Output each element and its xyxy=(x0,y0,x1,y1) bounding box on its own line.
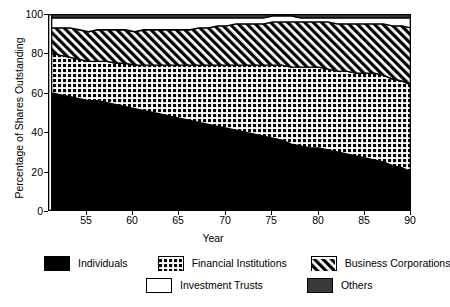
x-tick-mark xyxy=(271,211,272,215)
x-tick-mark xyxy=(178,211,179,215)
x-axis-label: Year xyxy=(0,232,426,244)
legend-item-investment-trusts: Investment Trusts xyxy=(146,278,263,293)
legend-item-business-corporations: Business Corporations xyxy=(311,256,450,271)
x-tick-mark xyxy=(86,211,87,215)
legend-item-others: Others xyxy=(307,278,373,293)
legend-swatch-others xyxy=(307,278,333,293)
legend-swatch-financial-institutions xyxy=(158,256,184,271)
legend-swatch-individuals xyxy=(44,256,70,271)
legend-label: Business Corporations xyxy=(345,257,450,269)
x-tick-mark xyxy=(364,211,365,215)
legend-label: Investment Trusts xyxy=(180,279,263,291)
legend: Individuals Financial Institutions Busin… xyxy=(0,252,426,296)
x-tick-mark xyxy=(318,211,319,215)
x-tick-label: 70 xyxy=(219,214,231,226)
x-tick-label: 60 xyxy=(126,214,138,226)
x-tick-label: 75 xyxy=(265,214,277,226)
legend-row: Individuals Financial Institutions Busin… xyxy=(0,252,426,274)
x-tick-label: 80 xyxy=(312,214,324,226)
legend-item-financial-institutions: Financial Institutions xyxy=(158,256,287,271)
x-tick-label: 55 xyxy=(80,214,92,226)
legend-swatch-business-corporations xyxy=(311,256,337,271)
legend-label: Financial Institutions xyxy=(192,257,287,269)
x-tick-label: 90 xyxy=(404,214,416,226)
legend-row: Investment Trusts Others xyxy=(0,274,426,296)
x-tick-mark xyxy=(225,211,226,215)
x-tick-label: 65 xyxy=(172,214,184,226)
legend-label: Individuals xyxy=(78,257,128,269)
x-tick-mark xyxy=(410,211,411,215)
legend-item-individuals: Individuals xyxy=(44,256,128,271)
legend-label: Others xyxy=(341,279,373,291)
x-tick-mark xyxy=(132,211,133,215)
x-tick-label: 85 xyxy=(358,214,370,226)
legend-swatch-investment-trusts xyxy=(146,278,172,293)
